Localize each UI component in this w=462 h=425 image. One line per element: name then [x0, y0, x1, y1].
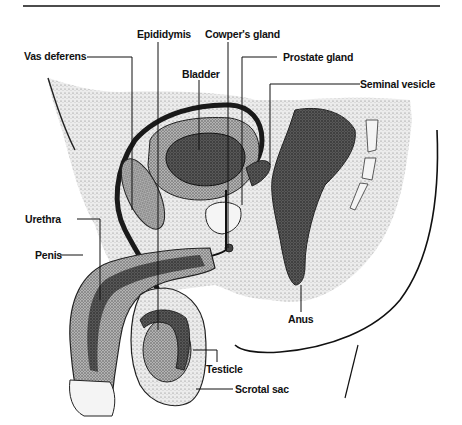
label-prostate-gland: Prostate gland [283, 51, 353, 63]
label-testicle: Testicle [206, 363, 243, 375]
label-cowpers-gland: Cowper's gland [205, 28, 280, 40]
anatomy-diagram: Vas deferens Epididymis Cowper's gland P… [0, 0, 462, 425]
thigh-line [345, 345, 358, 398]
male-reproductive-illustration [0, 0, 462, 425]
label-penis: Penis [35, 249, 62, 261]
label-epididymis: Epididymis [137, 28, 191, 40]
label-bladder: Bladder [182, 68, 220, 80]
glans [70, 380, 115, 416]
label-scrotal-sac: Scrotal sac [235, 383, 289, 395]
bladder-cavity [166, 133, 245, 186]
label-urethra: Urethra [25, 213, 61, 225]
label-vas-deferens: Vas deferens [24, 50, 86, 62]
label-seminal-vesicle: Seminal vesicle [360, 78, 435, 90]
label-anus: Anus [288, 313, 313, 325]
